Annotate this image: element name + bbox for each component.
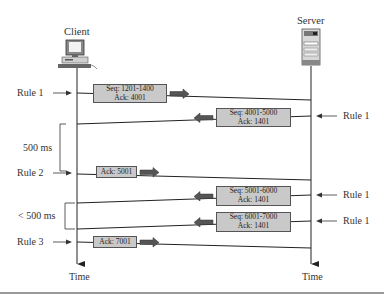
tcp-timeline-diagram: Client Server Time Time 500 ms < 500 ms … (0, 0, 384, 301)
rule-pointer-arrow-icon (316, 193, 337, 198)
segment-box: Ack: 5001 (96, 166, 137, 178)
right-arrow-icon (170, 89, 189, 99)
interval-bracket-lt500ms (65, 203, 75, 229)
bottom-divider (0, 292, 384, 294)
segment-box: Seq: 6001-7000Ack: 1401 (216, 212, 291, 232)
server-label: Server (297, 16, 324, 27)
segment-text: Ack: 5001 (97, 168, 136, 177)
left-arrow-icon (194, 192, 213, 202)
rule-label: Rule 1 (17, 88, 43, 98)
interval-label-lt500ms: < 500 ms (18, 211, 55, 221)
segment-box: Seq: 1201-1400Ack: 4001 (93, 84, 167, 103)
right-arrow-icon (140, 238, 159, 248)
rule-pointer-arrow-icon (53, 240, 72, 245)
rule-label: Rule 1 (343, 190, 369, 200)
segment-box: Ack: 7001 (93, 236, 137, 248)
interval-label-500ms: 500 ms (23, 143, 52, 153)
rule-label: Rule 1 (343, 216, 369, 226)
left-arrow-icon (194, 218, 213, 228)
diagram-canvas (0, 0, 384, 301)
segment-text: Ack: 1401 (217, 196, 290, 205)
client-label: Client (64, 27, 90, 38)
rule-label: Rule 1 (343, 111, 369, 121)
server-time-label: Time (302, 272, 323, 282)
segment-text: Ack: 1401 (217, 118, 290, 127)
segment-box: Seq: 4001-5000Ack: 1401 (216, 108, 291, 127)
segment-box: Seq: 5001-6000Ack: 1401 (216, 186, 291, 206)
rule-label: Rule 2 (17, 168, 43, 178)
client-time-label: Time (69, 272, 90, 282)
server-tower-icon (302, 29, 320, 65)
desktop-computer-icon (58, 40, 97, 69)
rule-pointer-arrow-icon (316, 114, 337, 119)
left-arrow-icon (194, 113, 213, 123)
interval-bracket-500ms (60, 124, 66, 171)
rule-pointer-arrow-icon (53, 91, 72, 96)
segment-text: Ack: 7001 (94, 238, 136, 247)
rule-pointer-arrow-icon (316, 219, 337, 224)
rule-label: Rule 3 (17, 237, 43, 247)
segment-text: Ack: 1401 (217, 222, 290, 231)
segment-text: Ack: 4001 (94, 94, 166, 103)
